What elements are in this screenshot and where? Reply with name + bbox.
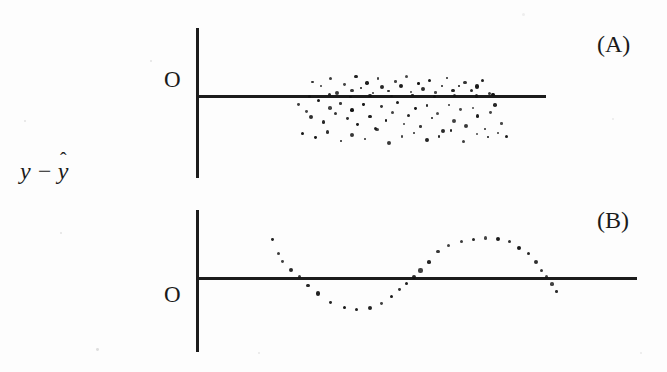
data-point bbox=[329, 301, 332, 304]
data-point bbox=[385, 119, 387, 121]
scan-speck bbox=[150, 60, 152, 62]
data-point bbox=[419, 125, 422, 128]
data-point bbox=[425, 138, 429, 142]
scan-speck bbox=[96, 348, 99, 351]
data-point bbox=[281, 260, 284, 263]
data-point bbox=[387, 90, 389, 92]
panel-b-horizontal-axis bbox=[197, 277, 637, 280]
data-point bbox=[496, 237, 500, 241]
data-point bbox=[350, 89, 354, 93]
data-point bbox=[500, 122, 502, 124]
data-point bbox=[446, 77, 448, 79]
panel-a-vertical-axis bbox=[196, 28, 199, 178]
data-point bbox=[377, 77, 379, 79]
data-point bbox=[405, 75, 409, 79]
data-point bbox=[472, 107, 474, 109]
data-point bbox=[448, 104, 450, 106]
data-point bbox=[380, 105, 383, 108]
data-point bbox=[339, 102, 342, 105]
data-point bbox=[508, 240, 511, 243]
panel-a-horizontal-axis bbox=[197, 95, 546, 98]
data-point bbox=[311, 81, 313, 83]
data-point bbox=[277, 252, 280, 255]
data-point bbox=[540, 269, 543, 272]
data-point bbox=[271, 238, 274, 241]
data-point bbox=[375, 128, 379, 132]
data-point bbox=[470, 89, 473, 92]
panel-a-label: (A) bbox=[597, 32, 630, 56]
panel-a-scatter-points bbox=[0, 0, 667, 372]
data-point bbox=[334, 112, 337, 115]
data-point bbox=[458, 85, 460, 87]
data-point bbox=[390, 295, 393, 298]
data-point bbox=[346, 117, 349, 120]
data-point bbox=[484, 236, 488, 240]
data-point bbox=[464, 124, 468, 128]
data-point bbox=[297, 103, 300, 106]
data-point bbox=[398, 288, 401, 291]
data-point bbox=[362, 103, 364, 105]
panel-b-vertical-axis bbox=[196, 210, 199, 352]
data-point bbox=[438, 135, 441, 138]
data-point bbox=[460, 240, 463, 243]
data-point bbox=[399, 84, 403, 88]
residual-plot-figure: O (A) O (B) y−ˆy bbox=[0, 0, 667, 372]
data-point bbox=[505, 135, 508, 138]
data-point bbox=[365, 81, 368, 84]
scan-speck bbox=[24, 120, 26, 122]
data-point bbox=[329, 77, 332, 80]
data-point bbox=[360, 87, 362, 89]
data-point bbox=[343, 306, 346, 309]
circumflex-accent-icon: ˆ bbox=[60, 147, 67, 170]
data-point bbox=[426, 104, 428, 106]
data-point bbox=[534, 260, 538, 264]
data-point bbox=[394, 80, 397, 83]
data-point bbox=[441, 129, 445, 133]
scan-speck bbox=[612, 118, 614, 120]
scan-speck bbox=[60, 232, 62, 234]
data-point bbox=[410, 91, 412, 93]
data-point bbox=[328, 106, 331, 109]
data-point bbox=[517, 246, 521, 250]
y-axis-label-y: y bbox=[20, 158, 31, 184]
scan-speck bbox=[640, 352, 642, 354]
panel-a-origin-label: O bbox=[164, 68, 181, 91]
data-point bbox=[317, 99, 320, 102]
panel-b-origin-label: O bbox=[164, 283, 181, 306]
data-point bbox=[368, 306, 372, 310]
data-point bbox=[421, 87, 425, 91]
data-point bbox=[322, 120, 326, 124]
data-point bbox=[309, 115, 313, 119]
data-point bbox=[481, 79, 485, 83]
data-point bbox=[472, 238, 475, 241]
data-point bbox=[475, 84, 479, 88]
data-point bbox=[391, 111, 394, 114]
data-point bbox=[476, 114, 480, 118]
data-point bbox=[340, 140, 342, 142]
data-point bbox=[476, 133, 478, 135]
data-point bbox=[436, 250, 439, 253]
data-point bbox=[441, 85, 443, 87]
data-point bbox=[431, 117, 433, 119]
data-point bbox=[452, 119, 456, 123]
data-point bbox=[289, 268, 293, 272]
data-point bbox=[447, 244, 450, 247]
y-axis-label-minus: − bbox=[36, 158, 53, 184]
data-point bbox=[364, 138, 366, 140]
scan-speck bbox=[258, 352, 260, 354]
y-axis-label-yhat: ˆy bbox=[58, 158, 69, 185]
data-point bbox=[403, 123, 405, 125]
data-point bbox=[301, 132, 304, 135]
data-point bbox=[417, 82, 420, 85]
data-point bbox=[555, 290, 558, 293]
data-point bbox=[497, 132, 499, 134]
data-point bbox=[450, 129, 453, 132]
data-point bbox=[354, 75, 357, 78]
data-point bbox=[343, 83, 346, 86]
data-point bbox=[427, 260, 431, 264]
data-point bbox=[463, 81, 466, 84]
data-point bbox=[418, 268, 422, 272]
data-point bbox=[356, 123, 359, 126]
data-point bbox=[451, 89, 454, 92]
data-point bbox=[355, 308, 358, 311]
